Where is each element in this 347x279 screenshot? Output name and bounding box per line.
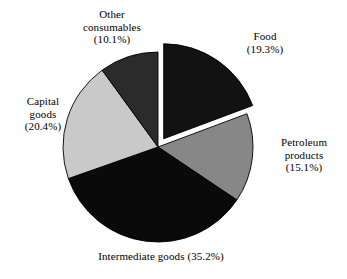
pie-chart-figure: Other consumables (10.1%) Food (19.3%) C… xyxy=(0,0,347,279)
pie-label-capital-goods: Capital goods (20.4%) xyxy=(8,95,78,133)
pie-label-other-consumables: Other consumables (10.1%) xyxy=(62,8,162,46)
pie-label-intermediate-goods: Intermediate goods (35.2%) xyxy=(56,250,266,263)
pie-slices-group xyxy=(63,44,253,242)
pie-label-food: Food (19.3%) xyxy=(228,30,302,55)
pie-label-petroleum-products: Petroleum products (15.1%) xyxy=(262,136,346,174)
